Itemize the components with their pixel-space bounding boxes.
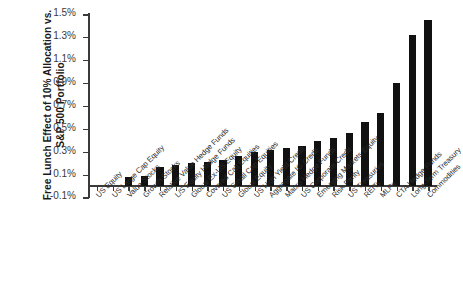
x-tick-mark [113, 186, 114, 191]
bar [235, 156, 242, 186]
y-tick-label: 1.1% [53, 53, 76, 64]
x-tick-mark [255, 186, 256, 191]
y-tick-label: 1.3% [53, 30, 76, 41]
x-tick-mark [176, 186, 177, 191]
bar [251, 152, 258, 186]
x-tick-mark [397, 186, 398, 191]
bar [346, 133, 353, 186]
x-tick-mark [302, 186, 303, 191]
y-tick-label: 1.5% [53, 7, 76, 18]
bar [267, 150, 274, 186]
x-tick-mark [412, 186, 413, 191]
y-tick-mark [83, 106, 89, 108]
y-tick-label: 0.1% [53, 168, 76, 179]
y-tick-label: 0.7% [53, 99, 76, 110]
bar [172, 165, 179, 186]
x-tick-mark [160, 186, 161, 191]
x-tick-mark [207, 186, 208, 191]
y-tick-mark [83, 37, 89, 39]
y-tick-label: -0.1% [50, 190, 76, 201]
bars-container [89, 14, 436, 186]
y-tick-label: 0.5% [53, 122, 76, 133]
bar [330, 138, 337, 186]
y-tick-mark [83, 197, 89, 199]
bar [188, 163, 195, 186]
y-tick-mark [83, 60, 89, 62]
x-tick-mark [97, 186, 98, 191]
bar [283, 148, 290, 186]
y-tick-mark [83, 83, 89, 85]
bar [409, 35, 416, 186]
y-tick-label: 0.3% [53, 145, 76, 156]
bar [125, 177, 132, 186]
x-tick-mark [428, 186, 429, 191]
x-tick-mark [192, 186, 193, 191]
bar [361, 122, 368, 186]
x-tick-mark [333, 186, 334, 191]
bar [298, 146, 305, 186]
y-tick-mark [83, 175, 89, 177]
y-tick-label: 0.9% [53, 76, 76, 87]
x-tick-mark [223, 186, 224, 191]
y-tick-mark [83, 152, 89, 154]
y-axis-tick-labels: -0.1%0.1%0.3%0.5%0.7%0.9%1.1%1.3%1.5% [0, 0, 82, 301]
x-tick-mark [128, 186, 129, 191]
x-tick-mark [349, 186, 350, 191]
bar [393, 83, 400, 186]
bar [377, 113, 384, 186]
y-tick-mark [83, 14, 89, 16]
bar [314, 141, 321, 186]
x-tick-mark [239, 186, 240, 191]
y-tick-mark [83, 129, 89, 131]
bar [219, 160, 226, 186]
x-tick-mark [286, 186, 287, 191]
x-tick-mark [318, 186, 319, 191]
x-tick-mark [144, 186, 145, 191]
bar [156, 167, 163, 186]
bar [204, 162, 211, 186]
bar [141, 176, 148, 186]
x-tick-mark [381, 186, 382, 191]
x-tick-mark [365, 186, 366, 191]
x-tick-mark [270, 186, 271, 191]
bar [424, 20, 431, 186]
